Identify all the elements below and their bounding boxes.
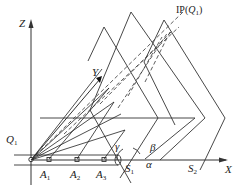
- label-a2: A2: [69, 168, 81, 182]
- planes: [40, 12, 225, 183]
- label-gamma: γ: [115, 140, 120, 152]
- x-axis-label: X: [224, 163, 233, 175]
- x-axis-arrow-icon: [219, 158, 228, 163]
- label-q1: Q1: [6, 133, 18, 147]
- plane-3: [144, 20, 225, 170]
- z-axis-arrow-icon: [29, 19, 34, 28]
- label-s1: S1: [125, 162, 135, 176]
- label-a1: A1: [39, 168, 51, 182]
- label-beta: β: [149, 141, 156, 153]
- diagram-canvas: Z X Y: [0, 0, 240, 190]
- label-a3: A3: [95, 168, 107, 182]
- z-axis-label: Z: [19, 17, 26, 29]
- label-ip-q1: IP(Q1): [176, 4, 202, 17]
- label-alpha: α: [146, 158, 152, 170]
- label-s2: S2: [188, 162, 198, 176]
- image-point-rays: [31, 12, 183, 160]
